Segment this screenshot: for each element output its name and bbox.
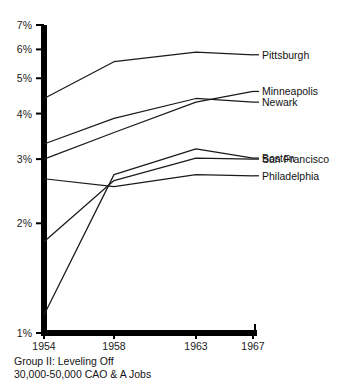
y-tick-mark [36, 24, 44, 26]
series-line [44, 158, 253, 242]
series-line [44, 91, 253, 159]
series-line [44, 52, 253, 98]
caption-line-1: Group II: Leveling Off [14, 355, 151, 368]
x-tick-mark [252, 330, 254, 339]
y-axis-spine [41, 25, 47, 336]
x-tick-label: 1954 [24, 341, 64, 352]
x-tick-mark [113, 330, 115, 339]
chart-series-group [44, 52, 253, 315]
y-tick-label: 2% [6, 218, 32, 229]
y-tick-label: 1% [6, 328, 32, 339]
y-tick-mark [36, 158, 44, 160]
y-tick-mark [36, 48, 44, 50]
series-line [44, 149, 253, 315]
y-tick-mark [36, 332, 44, 334]
chart-leader-lines [253, 55, 259, 176]
y-tick-mark [36, 222, 44, 224]
x-axis-spine [41, 330, 257, 336]
y-tick-label: 7% [6, 20, 32, 31]
y-tick-label: 4% [6, 109, 32, 120]
y-tick-label: 5% [6, 73, 32, 84]
caption-line-2: 30,000-50,000 CAO & A Jobs [14, 368, 151, 381]
y-tick-label: 3% [6, 154, 32, 165]
x-tick-mark [195, 330, 197, 339]
series-label-newark: Newark [262, 97, 298, 108]
x-tick-label: 1967 [233, 341, 273, 352]
series-label-pittsburgh: Pittsburgh [262, 50, 309, 61]
y-tick-mark [36, 113, 44, 115]
series-label-san_francisco: San Francisco [262, 154, 329, 165]
chart-container: 1%2%3%4%5%6%7% 1954195819631967 Pittsbur… [0, 0, 347, 384]
series-line [44, 98, 253, 144]
y-tick-label: 6% [6, 44, 32, 55]
series-line [44, 175, 253, 187]
x-axis-end-cap [254, 324, 256, 336]
x-tick-label: 1963 [176, 341, 216, 352]
x-tick-label: 1958 [94, 341, 134, 352]
chart-caption: Group II: Leveling Off 30,000-50,000 CAO… [14, 355, 151, 381]
series-label-philadelphia: Philadelphia [262, 171, 319, 182]
x-tick-mark [43, 330, 45, 339]
y-tick-mark [36, 77, 44, 79]
